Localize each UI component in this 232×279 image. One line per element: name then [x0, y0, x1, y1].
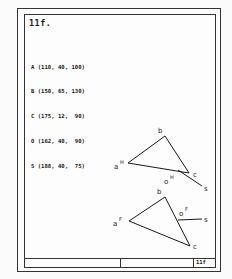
label-a-front-sup: H [120, 159, 124, 165]
top-view-triangle [129, 197, 202, 246]
label-a-front: a [114, 163, 118, 171]
label-o-top: o [179, 210, 183, 218]
projection-drawing: b a H c o H s b a F o F s c [0, 0, 232, 279]
label-o-front: o [164, 178, 168, 186]
label-b-front: b [158, 127, 163, 135]
label-o-front-sup: H [170, 174, 174, 180]
label-s-top: s [204, 216, 208, 224]
front-view-line-os [178, 170, 202, 186]
label-c-front: c [193, 171, 197, 179]
top-view-line-os [178, 219, 202, 220]
label-s-front: s [204, 185, 208, 193]
footer-divider [193, 258, 194, 268]
label-b-top: b [157, 188, 162, 196]
front-view-labels: b a H c o H s [114, 127, 208, 193]
label-o-top-sup: F [185, 206, 188, 212]
footer-page-code: 11f [196, 259, 206, 265]
footer-divider [120, 258, 121, 268]
label-a-top: a [113, 220, 117, 228]
label-c-top: c [193, 243, 197, 251]
label-a-top-sup: F [119, 216, 122, 222]
